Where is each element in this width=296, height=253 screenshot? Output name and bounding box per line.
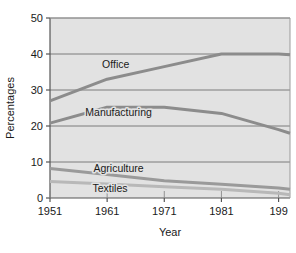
y-tick-label: 50 — [31, 12, 43, 24]
x-tick-labels: 1951196119711981199 — [38, 205, 288, 217]
chart-canvas: 01020304050 1951196119711981199 OfficeOf… — [0, 0, 296, 253]
y-axis-title: Percentages — [4, 77, 16, 139]
series-annotation-office: Office — [102, 58, 129, 70]
x-tick-label: 1981 — [209, 205, 233, 217]
y-tick-label: 10 — [31, 156, 43, 168]
series-annotation-manufacturing: Manufacturing — [85, 106, 152, 118]
x-tick-label: 1961 — [95, 205, 119, 217]
y-tick-label: 40 — [31, 48, 43, 60]
x-tick-label: 1951 — [38, 205, 62, 217]
y-tick-labels: 01020304050 — [31, 12, 43, 204]
x-tick-label: 199 — [269, 205, 287, 217]
series-annotation-agriculture: Agriculture — [93, 162, 143, 174]
x-axis-title: Year — [159, 226, 182, 238]
y-tick-label: 20 — [31, 120, 43, 132]
series-annotation-textiles: Textiles — [92, 182, 127, 194]
line-chart: 01020304050 1951196119711981199 OfficeOf… — [0, 0, 296, 253]
y-tick-label: 30 — [31, 84, 43, 96]
y-tick-label: 0 — [37, 192, 43, 204]
x-tick-label: 1971 — [152, 205, 176, 217]
